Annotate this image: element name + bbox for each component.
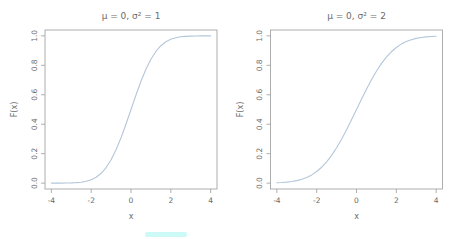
x-axis-label: x — [354, 212, 359, 221]
cdf-curve — [51, 36, 210, 183]
highlight-artifact — [145, 232, 187, 237]
x-tick-label: 0 — [354, 196, 359, 205]
panel-variance-2: -4-20240.00.20.40.60.81.0μ = 0, σ² = 2xF… — [225, 0, 450, 239]
y-tick-label: 0.8 — [256, 59, 265, 71]
cdf-plot-variance-2: -4-20240.00.20.40.60.81.0μ = 0, σ² = 2xF… — [225, 0, 451, 239]
y-tick-label: 0.6 — [256, 89, 265, 101]
y-tick-label: 0.8 — [30, 59, 39, 71]
y-tick-label: 1.0 — [30, 30, 39, 42]
x-tick-label: 4 — [208, 196, 213, 205]
y-tick-label: 0.2 — [256, 147, 265, 159]
y-tick-label: 0.0 — [256, 177, 265, 189]
figure-normal-cdf-plots: -4-20240.00.20.40.60.81.0μ = 0, σ² = 1xF… — [0, 0, 451, 239]
x-tick-label: 2 — [394, 196, 399, 205]
x-tick-label: 4 — [434, 196, 439, 205]
y-tick-label: 1.0 — [256, 30, 265, 42]
x-tick-label: -4 — [273, 196, 281, 205]
x-tick-label: -4 — [48, 196, 56, 205]
y-axis-label: F(x) — [10, 102, 19, 118]
y-axis-label: F(x) — [236, 102, 245, 118]
cdf-plot-variance-1: -4-20240.00.20.40.60.81.0μ = 0, σ² = 1xF… — [0, 0, 225, 239]
panel-variance-1: -4-20240.00.20.40.60.81.0μ = 0, σ² = 1xF… — [0, 0, 225, 239]
x-tick-label: 0 — [129, 196, 134, 205]
y-tick-label: 0.0 — [30, 177, 39, 189]
plot-title: μ = 0, σ² = 1 — [102, 11, 161, 21]
y-tick-label: 0.2 — [30, 147, 39, 159]
plot-title: μ = 0, σ² = 2 — [327, 11, 386, 21]
x-axis-label: x — [129, 212, 134, 221]
cdf-curve — [277, 36, 436, 183]
y-tick-label: 0.6 — [30, 89, 39, 101]
x-tick-label: -2 — [87, 196, 95, 205]
y-tick-label: 0.4 — [30, 118, 39, 130]
x-tick-label: 2 — [168, 196, 173, 205]
y-tick-label: 0.4 — [256, 118, 265, 130]
x-tick-label: -2 — [313, 196, 321, 205]
